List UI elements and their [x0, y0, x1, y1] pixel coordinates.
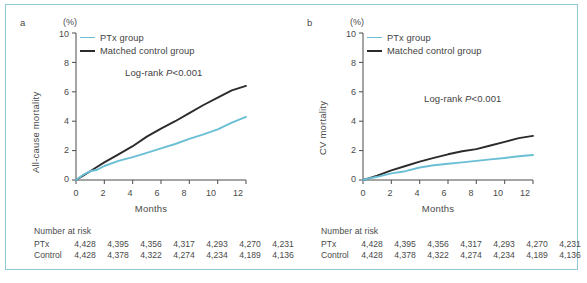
legend-label-ptx: PTx group: [387, 33, 431, 43]
risk-value: 4,317: [458, 239, 484, 249]
risk-row-control: Control 4,428 4,378 4,322 4,274 4,234 4,…: [34, 250, 91, 261]
legend-a: PTx group Matched control group: [80, 31, 195, 57]
logrank-prefix: Log-rank: [424, 93, 465, 104]
risk-value: 4,189: [524, 250, 550, 260]
risk-table-a: Number at risk PTx 4,428 4,395 4,356 4,3…: [34, 226, 91, 261]
risk-value: 4,270: [237, 239, 263, 249]
risk-value: 4,378: [392, 250, 418, 260]
legend-line-icon-control: [367, 50, 382, 52]
risk-table-title: Number at risk: [321, 226, 378, 236]
legend-item-ptx: PTx group: [367, 31, 482, 44]
risk-value: 4,293: [204, 239, 230, 249]
risk-value: 4,274: [171, 250, 197, 260]
risk-value: 4,322: [138, 250, 164, 260]
risk-table-b: Number at risk PTx 4,428 4,395 4,356 4,3…: [321, 226, 378, 261]
risk-row-label-ptx: PTx: [34, 239, 49, 249]
risk-value: 4,356: [138, 239, 164, 249]
legend-label-control: Matched control group: [100, 46, 195, 56]
risk-row-control: Control 4,428 4,378 4,322 4,274 4,234 4,…: [321, 250, 378, 261]
risk-value: 4,293: [491, 239, 517, 249]
risk-row-label-control: Control: [321, 250, 349, 260]
risk-value: 4,189: [237, 250, 263, 260]
risk-value: 4,234: [204, 250, 230, 260]
risk-value: 4,356: [425, 239, 451, 249]
panel-b: b (%) CV mortality 10 8 6 4 2 0 0 2 4 6 …: [293, 5, 579, 271]
panel-a: a (%) All-cause mortality 10 8 6 4 2 0 0…: [6, 5, 292, 271]
series-matched-control-a: [76, 86, 246, 180]
risk-row-ptx: PTx 4,428 4,395 4,356 4,317 4,293 4,270 …: [321, 239, 378, 250]
risk-value: 4,136: [557, 250, 583, 260]
risk-value: 4,234: [491, 250, 517, 260]
risk-value: 4,231: [557, 239, 583, 249]
legend-b: PTx group Matched control group: [367, 31, 482, 57]
risk-value: 4,270: [524, 239, 550, 249]
legend-item-control: Matched control group: [80, 44, 195, 57]
logrank-annotation-a: Log-rank P<0.001: [125, 67, 202, 78]
risk-value: 4,428: [359, 250, 385, 260]
legend-line-icon-control: [80, 50, 95, 52]
legend-line-icon-ptx: [367, 37, 382, 38]
risk-value: 4,395: [105, 239, 131, 249]
logrank-suffix: <0.001: [172, 67, 202, 78]
legend-item-control: Matched control group: [367, 44, 482, 57]
risk-value: 4,322: [425, 250, 451, 260]
risk-value: 4,428: [72, 239, 98, 249]
risk-value: 4,317: [171, 239, 197, 249]
legend-item-ptx: PTx group: [80, 31, 195, 44]
logrank-prefix: Log-rank: [125, 67, 166, 78]
risk-value: 4,378: [105, 250, 131, 260]
risk-value: 4,428: [72, 250, 98, 260]
series-ptx-a: [76, 117, 246, 180]
risk-row-label-control: Control: [34, 250, 62, 260]
risk-row-label-ptx: PTx: [321, 239, 336, 249]
risk-value: 4,395: [392, 239, 418, 249]
risk-value: 4,428: [359, 239, 385, 249]
legend-line-icon-ptx: [80, 37, 95, 38]
risk-table-title: Number at risk: [34, 226, 91, 236]
figure-frame: a (%) All-cause mortality 10 8 6 4 2 0 0…: [5, 4, 578, 270]
risk-row-ptx: PTx 4,428 4,395 4,356 4,317 4,293 4,270 …: [34, 239, 91, 250]
logrank-suffix: <0.001: [471, 93, 501, 104]
logrank-annotation-b: Log-rank P<0.001: [424, 93, 501, 104]
legend-label-control: Matched control group: [387, 46, 482, 56]
legend-label-ptx: PTx group: [100, 33, 144, 43]
risk-value: 4,274: [458, 250, 484, 260]
series-ptx-b: [363, 155, 533, 180]
